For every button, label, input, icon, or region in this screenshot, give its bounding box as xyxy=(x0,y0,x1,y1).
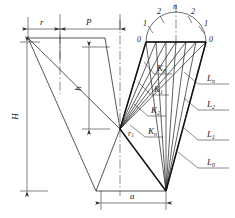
label-K1-sub: 1 xyxy=(160,89,163,95)
l1-leader xyxy=(184,128,198,140)
cone-diagonal-up-left xyxy=(28,38,120,129)
label-K0-sub: 0 xyxy=(163,68,166,74)
label-Ln: Ln xyxy=(207,74,215,83)
center-lines xyxy=(60,4,176,196)
label-L1-sub: 1 xyxy=(212,134,215,140)
technical-diagram: r P H h a r1 0 1 2 n 2 1 0 K0 K1 K2 Kn L… xyxy=(0,0,235,218)
dim-label-H: H xyxy=(11,113,20,120)
thick-edge-right xyxy=(166,42,206,191)
dim-label-a: a xyxy=(130,192,135,201)
arc-label-apex-n: n xyxy=(173,3,177,11)
label-L2-sub: 2 xyxy=(212,104,215,110)
arc-label-left-inner: 2 xyxy=(157,8,161,16)
label-K2-sub: 2 xyxy=(157,110,160,116)
cone-outline xyxy=(28,38,166,191)
label-Ln-sub: n xyxy=(212,78,215,84)
tick-right-2 xyxy=(188,16,192,23)
fan-line-1-right xyxy=(166,42,196,191)
dim-label-r: r xyxy=(40,18,44,27)
diagram-canvas xyxy=(0,0,235,218)
arc-label-left-mid: 1 xyxy=(143,20,147,28)
arc-label-right-outer: 0 xyxy=(209,36,213,44)
cone-left-edge xyxy=(28,38,96,191)
label-Kn-sub: n xyxy=(154,131,157,137)
arc-label-right-mid: 1 xyxy=(204,20,208,28)
l0-leader xyxy=(178,152,198,168)
cone-diagonal-down-left xyxy=(96,129,120,191)
label-K0: K0 xyxy=(157,64,166,73)
label-L0: L0 xyxy=(207,158,215,167)
label-K2: K2 xyxy=(151,106,160,115)
cone-inner-right-edge xyxy=(105,38,120,129)
radius-label-r1: r1 xyxy=(128,130,134,138)
dim-label-h: h xyxy=(74,86,83,91)
tick-left-2 xyxy=(160,16,164,23)
label-K1: K1 xyxy=(154,85,163,94)
dimension-line-H xyxy=(20,42,48,191)
radius-label-sub: 1 xyxy=(131,132,134,138)
label-L1: L1 xyxy=(207,130,215,139)
fan-line-n-center xyxy=(166,42,176,191)
dim-label-P: P xyxy=(86,18,92,27)
arc-label-left-outer: 0 xyxy=(137,36,141,44)
arc-label-right-inner: 2 xyxy=(191,8,195,16)
label-Kn: Kn xyxy=(148,127,157,136)
label-L2: L2 xyxy=(207,100,215,109)
dimension-line-h xyxy=(82,47,110,129)
label-L0-sub: 0 xyxy=(212,162,215,168)
